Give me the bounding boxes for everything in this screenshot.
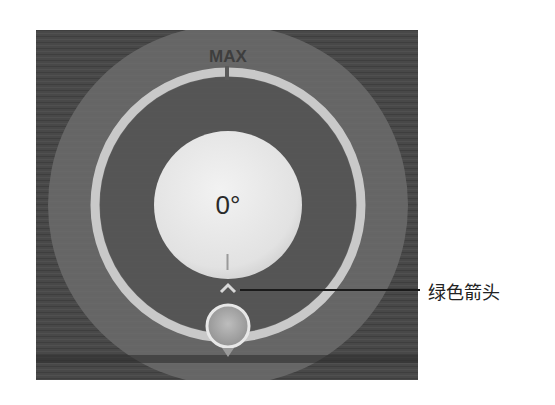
callout-line <box>240 289 420 291</box>
shadow-band <box>36 355 418 363</box>
dial-graphic: MAX 0° <box>36 30 418 380</box>
angle-value: 0° <box>216 190 241 220</box>
zero-tick <box>227 254 229 270</box>
dial-photo: MAX 0° <box>36 30 418 380</box>
dial-knob[interactable] <box>207 305 249 347</box>
callout-label: 绿色箭头 <box>428 278 500 304</box>
max-label: MAX <box>209 47 247 66</box>
max-tick <box>225 66 229 80</box>
